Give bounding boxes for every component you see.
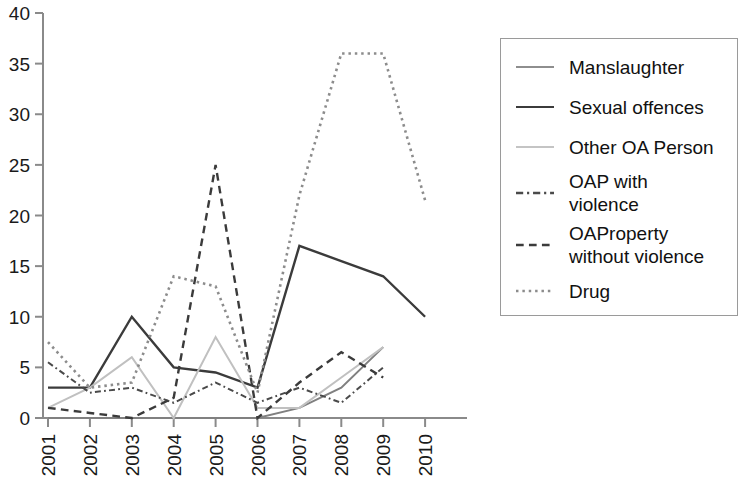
legend-swatch-solid-icon <box>515 140 555 154</box>
x-axis-tick-label: 2002 <box>80 434 101 476</box>
legend-item[interactable]: Drug <box>515 271 737 311</box>
chart-legend: ManslaughterSexual offencesOther OA Pers… <box>500 38 738 316</box>
legend-item[interactable]: Manslaughter <box>515 47 737 87</box>
y-axis-tick-label: 25 <box>9 155 30 176</box>
x-axis-tick-label: 2010 <box>415 434 436 476</box>
legend-item-label: OAProperty without violence <box>569 222 704 268</box>
x-axis-tick-label: 2007 <box>289 434 310 476</box>
y-axis-tick-label: 30 <box>9 104 30 125</box>
y-axis-tick-label: 40 <box>9 3 30 24</box>
x-axis-group <box>43 418 467 427</box>
data-series-group <box>48 54 425 419</box>
legend-item-label: Other OA Person <box>569 136 714 159</box>
legend-swatch-solid-icon <box>515 60 555 74</box>
y-axis-tick-label: 0 <box>19 408 30 429</box>
y-axis-ticks <box>35 13 43 418</box>
legend-item-label: Drug <box>569 280 610 303</box>
legend-swatch-dashed-icon <box>515 238 555 252</box>
x-axis-tick-label: 2004 <box>164 434 185 477</box>
legend-swatch-dotted-icon <box>515 284 555 298</box>
x-axis-tick-label: 2005 <box>206 434 227 476</box>
y-axis-tick-label: 15 <box>9 256 30 277</box>
legend-list: ManslaughterSexual offencesOther OA Pers… <box>501 39 737 315</box>
series-line-drug <box>48 54 425 393</box>
y-axis-group <box>35 13 43 418</box>
legend-swatch-dashdot-icon <box>515 186 555 200</box>
series-line-sexual-offences <box>48 246 425 388</box>
legend-item[interactable]: Sexual offences <box>515 87 737 127</box>
x-axis-tick-label: 2006 <box>248 434 269 476</box>
x-axis-tick-label: 2001 <box>38 434 59 476</box>
series-line-other-oa-person <box>48 337 383 418</box>
x-axis-tick-labels: 2001200220032004200520062007200820092010 <box>38 434 436 477</box>
x-axis-tick-label: 2009 <box>373 434 394 476</box>
y-axis-tick-label: 35 <box>9 54 30 75</box>
legend-item-label: Manslaughter <box>569 56 684 79</box>
legend-item[interactable]: Other OA Person <box>515 127 737 167</box>
y-axis-tick-label: 5 <box>19 357 30 378</box>
y-axis-tick-label: 10 <box>9 307 30 328</box>
x-axis-ticks <box>48 418 425 427</box>
x-axis-tick-label: 2003 <box>122 434 143 476</box>
x-axis-tick-label: 2008 <box>331 434 352 476</box>
y-axis-tick-label: 20 <box>9 206 30 227</box>
series-line-oaproperty-without-violence <box>48 165 383 418</box>
y-axis-tick-labels: 0510152025303540 <box>9 3 30 429</box>
legend-item[interactable]: OAProperty without violence <box>515 219 737 271</box>
legend-item-label: Sexual offences <box>569 96 704 119</box>
legend-item-label: OAP with violence <box>569 170 648 216</box>
legend-swatch-solid-icon <box>515 100 555 114</box>
legend-item[interactable]: OAP with violence <box>515 167 737 219</box>
